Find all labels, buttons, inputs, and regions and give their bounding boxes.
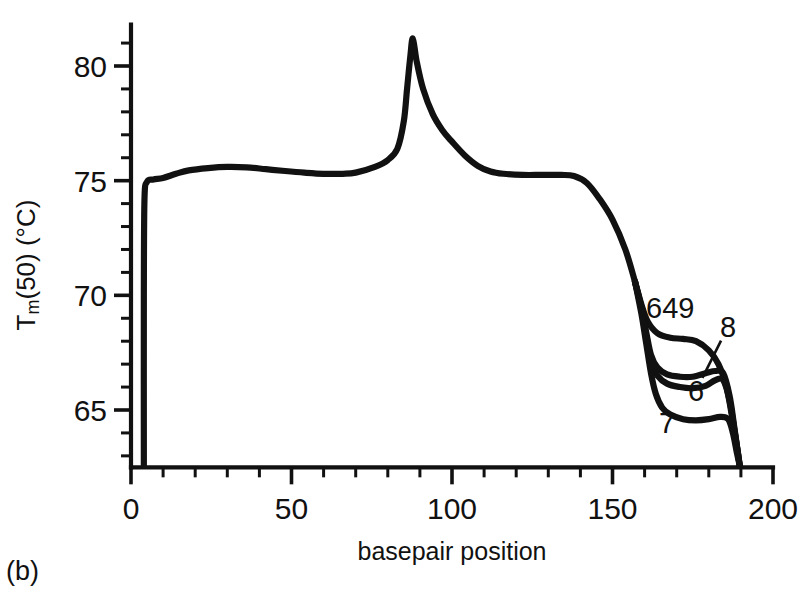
y-axis-title-subscript: m <box>23 300 43 315</box>
y-tick-label: 65 <box>74 394 107 427</box>
y-axis-title-base: T <box>11 315 41 331</box>
y-axis: 65707580 <box>74 25 131 468</box>
chart-canvas: 65707580 050100150200 649867 basepair po… <box>0 0 798 597</box>
figure-panel: 65707580 050100150200 649867 basepair po… <box>0 0 798 597</box>
x-tick-label: 50 <box>275 492 308 525</box>
y-axis-title: Tm(50) (°C) <box>4 150 48 380</box>
y-tick-label: 80 <box>74 50 107 83</box>
y-tick-label: 75 <box>74 165 107 198</box>
x-tick-label: 200 <box>748 492 798 525</box>
x-tick-label: 150 <box>587 492 637 525</box>
curve-label-7: 7 <box>659 407 675 439</box>
curve-label-649: 649 <box>646 292 694 324</box>
y-tick-label: 70 <box>74 279 107 312</box>
curve-label-6: 6 <box>688 375 704 407</box>
x-axis-title-group: basepair position <box>357 537 546 565</box>
y-axis-title-rest: (50) (°C) <box>11 200 41 300</box>
x-axis-title-text: basepair position <box>357 537 546 565</box>
x-tick-label: 100 <box>427 492 477 525</box>
panel-caption: (b) <box>6 556 39 587</box>
curve-label-8: 8 <box>720 311 736 343</box>
y-axis-title-text: Tm(50) (°C) <box>11 200 42 331</box>
x-axis: 050100150200 <box>123 467 798 525</box>
x-tick-label: 0 <box>123 492 140 525</box>
curve-series-group <box>144 38 740 465</box>
curve-649 <box>144 38 740 465</box>
